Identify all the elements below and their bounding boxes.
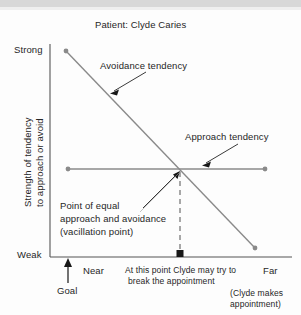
goal-arrow-head [64,258,72,267]
vacillation-secondary-leader [140,171,181,212]
avoidance-annotation-leader [114,72,146,91]
breakpoint-note-line2: break the appointment [128,276,215,286]
vacillation-label-line1: Point of equal [60,200,120,211]
avoidance-end-marker [253,246,258,251]
breakpoint-note-line1: At this point Clyde may try to [125,265,236,275]
vacillation-label-line3: (vacillation point) [60,226,133,237]
y-axis-tick-top: Strong [14,44,43,55]
vacillation-label-line2: approach and avoidance [60,213,166,224]
figure-title: Patient: Clyde Caries [95,19,186,30]
vacillation-axis-marker [177,250,184,257]
approach-end-marker [263,167,268,172]
avoidance-approach-conflict-figure: Patient: Clyde Caries Strong Weak Streng… [0,0,301,315]
approach-tendency-label: Approach tendency [185,131,269,142]
goal-label: Goal [57,285,77,296]
vacillation-annotation-leader [143,174,177,208]
appointment-note-line1: (Clyde makes [230,288,283,298]
x-axis-tick-far: Far [263,265,278,276]
avoidance-start-marker [64,49,69,54]
y-axis-label-line2: to approach or avoid [34,118,45,207]
approach-start-marker [66,167,71,172]
y-axis-tick-bottom: Weak [17,249,42,260]
y-axis-label-line1: Strength of tendency [22,117,33,207]
appointment-note-line2: appointment) [230,299,281,309]
approach-annotation-leader [206,144,238,163]
avoidance-tendency-label: Avoidance tendency [100,60,187,71]
x-axis-tick-near: Near [83,265,104,276]
